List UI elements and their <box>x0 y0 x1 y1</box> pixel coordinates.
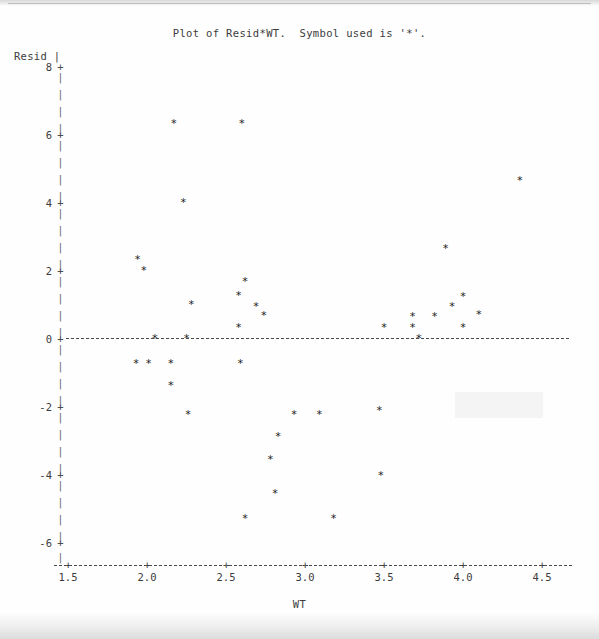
y-axis-tick-mark: + <box>56 401 65 413</box>
data-point: * <box>167 380 175 391</box>
x-axis-tick-label: 2.0 <box>138 571 157 584</box>
y-axis-bar-segment: | <box>57 140 64 150</box>
y-axis-tick-mark: + <box>56 197 65 209</box>
y-axis-tick-mark: + <box>56 61 65 73</box>
data-point: * <box>260 310 268 321</box>
data-point: * <box>442 243 450 254</box>
data-point: * <box>274 431 282 442</box>
data-point: * <box>475 309 483 320</box>
plot-canvas: |||||||||||||||||||||||||||||8+6+4+2+0+-… <box>0 0 599 639</box>
y-axis-bar-segment: | <box>57 344 64 354</box>
data-point: * <box>241 513 249 524</box>
y-axis-tick: 6+ <box>12 129 65 141</box>
data-point: * <box>266 454 274 465</box>
y-axis-tick: -4+ <box>12 469 65 481</box>
data-point: * <box>290 409 298 420</box>
x-axis-tick-label: 3.0 <box>296 571 315 584</box>
y-axis-tick-mark: + <box>56 537 65 549</box>
y-axis-tick: -2+ <box>12 401 65 413</box>
data-point: * <box>315 409 323 420</box>
data-point: * <box>329 513 337 524</box>
y-axis-tick-mark: + <box>56 469 65 481</box>
y-axis-bar-segment: | <box>57 514 64 524</box>
data-point: * <box>145 358 153 369</box>
y-axis-tick-label: -4 <box>12 469 56 481</box>
y-axis-tick: 4+ <box>12 197 65 209</box>
y-axis-bar-segment: | <box>57 157 64 167</box>
y-axis-tick-mark: + <box>56 129 65 141</box>
y-axis-tick: 2+ <box>12 265 65 277</box>
y-axis-tick: 0+ <box>12 333 65 345</box>
y-axis-tick: 8+ <box>12 61 65 73</box>
y-axis-bar-segment: | <box>57 276 64 286</box>
x-axis-tick-label: 4.0 <box>454 571 473 584</box>
y-axis-tick-label: 0 <box>12 333 56 345</box>
page-edge-bottom <box>0 613 599 639</box>
y-axis-bar-segment: | <box>57 446 64 456</box>
y-axis-tick-mark: + <box>56 265 65 277</box>
y-axis-bar-segment: | <box>57 208 64 218</box>
data-point: * <box>380 322 388 333</box>
y-axis-bar-segment: | <box>57 412 64 422</box>
y-axis-bar-segment: | <box>57 361 64 371</box>
data-point: * <box>184 409 192 420</box>
scan-smudge <box>455 392 543 418</box>
data-point: * <box>167 358 175 369</box>
y-axis-bar-segment: | <box>57 310 64 320</box>
y-axis-bar-segment: | <box>57 72 64 82</box>
x-axis-name: WT <box>0 598 599 610</box>
y-axis-tick-label: 2 <box>12 265 56 277</box>
y-axis-bar-segment: | <box>57 378 64 388</box>
y-axis-tick-mark: + <box>56 333 65 345</box>
y-axis-bar-segment: | <box>57 429 64 439</box>
data-point: * <box>241 276 249 287</box>
x-axis-tick-label: 2.5 <box>217 571 236 584</box>
data-point: * <box>375 405 383 416</box>
y-axis-bar-segment: | <box>57 106 64 116</box>
y-axis-bar-segment: | <box>57 552 64 562</box>
y-axis-tick: -6+ <box>12 537 65 549</box>
data-point: * <box>179 197 187 208</box>
x-axis-tick-label: 1.5 <box>59 571 78 584</box>
data-point: * <box>235 290 243 301</box>
y-axis-bar-segment: | <box>57 480 64 490</box>
data-point: * <box>132 358 140 369</box>
zero-reference-line <box>66 338 569 340</box>
data-point: * <box>516 175 524 186</box>
data-point: * <box>134 254 142 265</box>
data-point: * <box>170 118 178 129</box>
y-axis-bar-segment: | <box>57 174 64 184</box>
y-axis-tick-label: 4 <box>12 197 56 209</box>
data-point: * <box>377 470 385 481</box>
y-axis-bar-segment: | <box>57 497 64 507</box>
x-axis-line <box>54 565 572 567</box>
data-point: * <box>140 265 148 276</box>
scanned-page: Plot of Resid*WT. Symbol used is '*'. Re… <box>0 0 599 639</box>
x-axis-tick-label: 4.5 <box>533 571 552 584</box>
y-axis-bar-segment: | <box>57 242 64 252</box>
y-axis-tick-label: -2 <box>12 401 56 413</box>
data-point: * <box>459 291 467 302</box>
data-point: * <box>187 299 195 310</box>
y-axis-tick-label: -6 <box>12 537 56 549</box>
data-point: * <box>238 118 246 129</box>
y-axis-tick-label: 6 <box>12 129 56 141</box>
data-point: * <box>235 322 243 333</box>
y-axis-tick-label: 8 <box>12 61 56 73</box>
data-point: * <box>408 322 416 333</box>
data-point: * <box>448 301 456 312</box>
data-point: * <box>236 358 244 369</box>
data-point: * <box>459 322 467 333</box>
data-point: * <box>431 311 439 322</box>
y-axis-bar-segment: | <box>57 293 64 303</box>
data-point: * <box>271 488 279 499</box>
data-point: * <box>252 301 260 312</box>
x-axis-tick-label: 3.5 <box>375 571 394 584</box>
y-axis-bar-segment: | <box>57 89 64 99</box>
y-axis-bar-segment: | <box>57 225 64 235</box>
